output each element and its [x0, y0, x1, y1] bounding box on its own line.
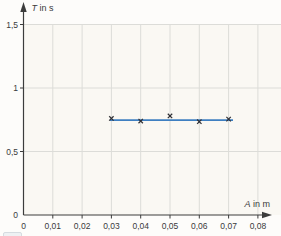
x-tick-label: 0,07 — [220, 221, 237, 231]
y-tick-label: 0,5 — [6, 147, 18, 157]
x-tick-label: 0,04 — [132, 221, 149, 231]
x-tick-label: 0 — [21, 221, 26, 231]
x-tick-label: 0,06 — [191, 221, 208, 231]
chart-canvas: 00,010,020,030,040,050,060,070,0800,511,… — [0, 0, 281, 236]
y-tick-label: 1 — [13, 83, 18, 93]
x-tick-label: 0,05 — [162, 221, 179, 231]
x-tick-label: 0,02 — [74, 221, 91, 231]
y-tick-label: 0 — [13, 210, 18, 220]
x-axis-title: A in m — [243, 199, 270, 209]
x-tick-label: 0,01 — [45, 221, 62, 231]
cropped-panel-corner — [3, 232, 22, 236]
pendulum-period-chart: 00,010,020,030,040,050,060,070,0800,511,… — [0, 0, 281, 236]
y-axis-title: T in s — [32, 3, 55, 13]
x-tick-label: 0,08 — [250, 221, 267, 231]
x-tick-label: 0,03 — [103, 221, 120, 231]
y-tick-label: 1,5 — [6, 20, 18, 30]
y-axis-arrowhead — [20, 2, 26, 12]
